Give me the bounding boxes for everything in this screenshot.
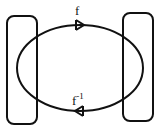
right-set (123, 13, 153, 121)
left-set (7, 16, 37, 124)
forward-map-label: f (75, 3, 80, 18)
mapping-diagram: f f-1 (0, 0, 161, 137)
inverse-map-label-superscript: -1 (76, 91, 84, 101)
